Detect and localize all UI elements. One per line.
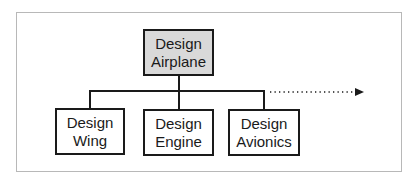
- node-label-line2: Avionics: [236, 133, 292, 151]
- node-label-line2: Airplane: [151, 53, 206, 71]
- connector-lines: [0, 0, 420, 185]
- node-design-avionics: Design Avionics: [228, 109, 300, 156]
- node-design-wing: Design Wing: [55, 108, 125, 155]
- node-label-line1: Design: [241, 115, 288, 133]
- node-label-line2: Wing: [73, 132, 107, 150]
- node-label-line1: Design: [155, 115, 202, 133]
- node-design-engine: Design Engine: [143, 109, 214, 156]
- arrow-head-icon: [355, 88, 364, 96]
- node-design-airplane: Design Airplane: [143, 29, 214, 76]
- node-label-line1: Design: [67, 114, 114, 132]
- node-label-line1: Design: [155, 35, 202, 53]
- node-label-line2: Engine: [155, 133, 202, 151]
